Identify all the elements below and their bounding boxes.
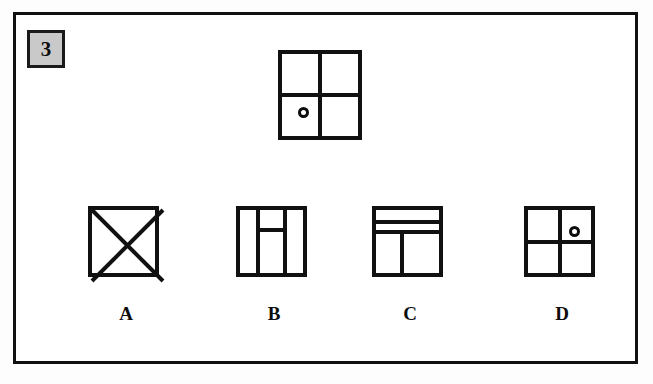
option-a[interactable]: A [64, 206, 188, 336]
option-d-horizontal-divider [528, 240, 591, 244]
prompt-figure [278, 50, 362, 140]
option-c-horizontal-second [376, 230, 439, 234]
option-b[interactable]: B [212, 206, 336, 336]
option-d-figure [524, 206, 595, 277]
option-b-figure [236, 206, 307, 277]
option-d[interactable]: D [500, 206, 624, 336]
option-c-label: C [348, 303, 472, 325]
option-c-horizontal-upper [376, 220, 439, 224]
option-a-figure [88, 206, 159, 277]
option-c-figure [372, 206, 443, 277]
option-a-label: A [64, 303, 188, 325]
option-b-label: B [212, 303, 336, 325]
option-b-short-horizontal [256, 228, 287, 232]
option-c-vertical-lower [400, 230, 404, 273]
prompt-figure-circle-marker [298, 107, 309, 118]
option-d-label: D [500, 303, 624, 325]
option-b-vertical-left [256, 210, 260, 273]
question-frame: 3 A B C [13, 12, 638, 364]
option-b-vertical-right [283, 210, 287, 273]
prompt-figure-horizontal-divider [282, 93, 358, 97]
question-number-badge: 3 [27, 30, 65, 68]
option-d-circle-marker [569, 226, 580, 237]
question-number-text: 3 [41, 39, 52, 60]
option-c[interactable]: C [348, 206, 472, 336]
option-a-diagonals-icon [88, 206, 167, 285]
